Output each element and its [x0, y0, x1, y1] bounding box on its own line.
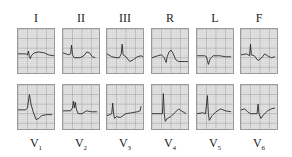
- ecg-grid: [63, 29, 99, 73]
- lead-label-iii: III: [106, 12, 144, 24]
- ecg-grid: [18, 29, 54, 73]
- lead-label-v3: V3: [106, 137, 144, 154]
- lead-strip-v2: [62, 84, 100, 130]
- lead-label-v4: V4: [151, 137, 189, 154]
- lead-label-i: I: [17, 12, 55, 24]
- lead-label-r: R: [151, 12, 189, 24]
- lead-strip-v6: [240, 84, 278, 130]
- ecg-grid: [107, 85, 143, 129]
- lead-label-l: L: [196, 12, 234, 24]
- ecg-grid: [18, 85, 54, 129]
- lead-strip-iii: [106, 28, 144, 74]
- lead-label-v5: V5: [196, 137, 234, 154]
- lead-strip-v4: [151, 84, 189, 130]
- ecg-grid: [241, 85, 277, 129]
- ecg-grid: [241, 29, 277, 73]
- ecg-trace: [107, 44, 143, 61]
- lead-strip-v3: [106, 84, 144, 130]
- lead-strip-v5: [196, 84, 234, 130]
- lead-strip-l: [196, 28, 234, 74]
- lead-label-v6: V6: [240, 137, 278, 154]
- ecg-grid: [107, 29, 143, 73]
- lead-strip-ii: [62, 28, 100, 74]
- lead-label-ii: II: [62, 12, 100, 24]
- lead-strip-f: [240, 28, 278, 74]
- ecg-grid: [197, 29, 233, 73]
- lead-strip-v1: [17, 84, 55, 130]
- lead-label-v2: V2: [62, 137, 100, 154]
- lead-label-f: F: [240, 12, 278, 24]
- ecg-grid: [152, 29, 188, 73]
- ecg-grid: [63, 85, 99, 129]
- lead-label-v1: V1: [17, 137, 55, 154]
- lead-strip-r: [151, 28, 189, 74]
- ecg-grid: [197, 85, 233, 129]
- ecg-grid: [152, 85, 188, 129]
- lead-strip-i: [17, 28, 55, 74]
